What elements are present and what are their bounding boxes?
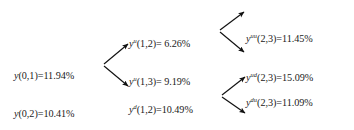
down-down-node: ydd(2,3)=13.15% — [246, 108, 313, 130]
edge-down-to-downdown — [222, 97, 245, 113]
root-node-line-2: y(0,2)=10.41% — [14, 108, 75, 121]
edge-root-to-up — [104, 44, 128, 64]
edge-up-to-updown — [220, 32, 244, 52]
up-up-node-line-1: yuu(2,3)=11.45% — [246, 33, 313, 46]
binomial-tree-diagram: y(0,1)=11.94% y(0,2)=10.41% y(0,3)=11.11… — [0, 0, 354, 130]
edge-root-to-down — [104, 66, 128, 86]
down-node-line-1: yd(1,2)=10.49% — [129, 104, 193, 117]
down-node: yd(1,2)=10.49% yd(1,3)=11.63% — [129, 79, 193, 130]
up-node-line-1: yu(1,2)= 6.26% — [129, 38, 190, 51]
edge-down-to-downup — [222, 77, 245, 95]
root-node-line-1: y(0,1)=11.94% — [14, 70, 75, 83]
edge-up-to-upup — [220, 12, 244, 30]
root-node: y(0,1)=11.94% y(0,2)=10.41% y(0,3)=11.11… — [14, 45, 75, 130]
